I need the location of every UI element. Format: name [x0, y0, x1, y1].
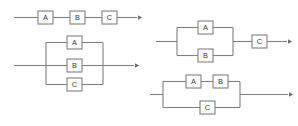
block-c: C: [252, 35, 267, 48]
block-b: B: [70, 11, 85, 24]
block-label-a: A: [203, 23, 208, 32]
diagram-series-abc: ABC: [14, 11, 142, 24]
output-arrow-icon: [289, 92, 293, 96]
diagram-parallel-abc: ABC: [14, 36, 139, 91]
block-label-a: A: [43, 13, 48, 22]
block-label-c: C: [257, 37, 263, 46]
block-label-c: C: [107, 13, 113, 22]
block-label-c: C: [205, 103, 211, 112]
block-a: A: [38, 11, 53, 24]
output-arrow-icon: [288, 39, 292, 43]
block-c: C: [200, 101, 215, 114]
block-b: B: [198, 49, 213, 62]
block-a: A: [186, 75, 201, 88]
output-arrow-icon: [138, 15, 142, 19]
diagram-groups: ABCABCABCABC: [14, 11, 293, 114]
block-b: B: [213, 75, 228, 88]
block-label-c: C: [72, 80, 78, 89]
block-c: C: [102, 11, 117, 24]
block-b: B: [67, 59, 82, 72]
block-label-b: B: [75, 13, 80, 22]
block-label-b: B: [72, 61, 77, 70]
block-a: A: [67, 36, 82, 49]
block-c: C: [67, 78, 82, 91]
diagram-parallel-ab-series-c: ABC: [156, 21, 292, 62]
block-label-a: A: [72, 38, 77, 47]
block-label-b: B: [203, 51, 208, 60]
diagram-canvas: ABCABCABCABC: [0, 0, 298, 126]
block-label-b: B: [218, 77, 223, 86]
diagram-svg: ABCABCABCABC: [0, 0, 298, 126]
diagram-series-ab-parallel-c: ABC: [150, 75, 293, 114]
block-label-a: A: [191, 77, 196, 86]
output-arrow-icon: [135, 63, 139, 67]
block-a: A: [198, 21, 213, 34]
